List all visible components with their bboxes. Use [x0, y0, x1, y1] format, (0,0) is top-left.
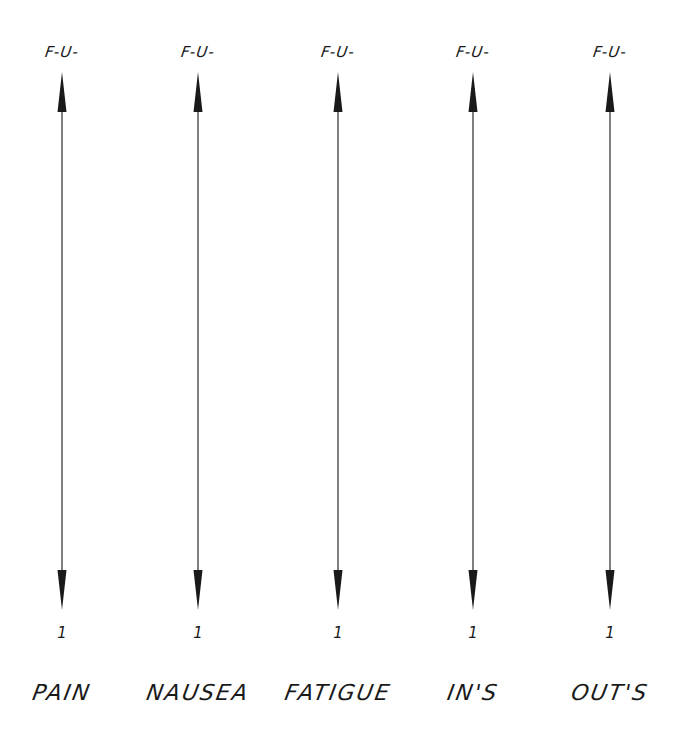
scale-pain: F-U- 1 PAIN — [2, 0, 122, 747]
double-arrow-icon — [463, 70, 483, 615]
scale-bottom-value: 1 — [413, 624, 533, 642]
scale-top-label: F-U- — [137, 43, 260, 61]
scale-bottom-value: 1 — [138, 624, 258, 642]
scale-fatigue: F-U- 1 FATIGUE — [278, 0, 398, 747]
scale-top-label: F-U- — [277, 43, 400, 61]
double-arrow-icon — [600, 70, 620, 615]
scale-top-label: F-U- — [549, 43, 672, 61]
scale-bottom-value: 1 — [278, 624, 398, 642]
scale-ins: F-U- 1 IN'S — [413, 0, 533, 747]
scale-top-label: F-U- — [1, 43, 124, 61]
category-label-outs: OUT'S — [528, 680, 687, 705]
scale-top-label: F-U- — [412, 43, 535, 61]
scale-nausea: F-U- 1 NAUSEA — [138, 0, 258, 747]
double-arrow-icon — [328, 70, 348, 615]
double-arrow-icon — [52, 70, 72, 615]
scale-bottom-value: 1 — [2, 624, 122, 642]
scale-outs: F-U- 1 OUT'S — [550, 0, 670, 747]
double-arrow-icon — [188, 70, 208, 615]
scale-bottom-value: 1 — [550, 624, 670, 642]
